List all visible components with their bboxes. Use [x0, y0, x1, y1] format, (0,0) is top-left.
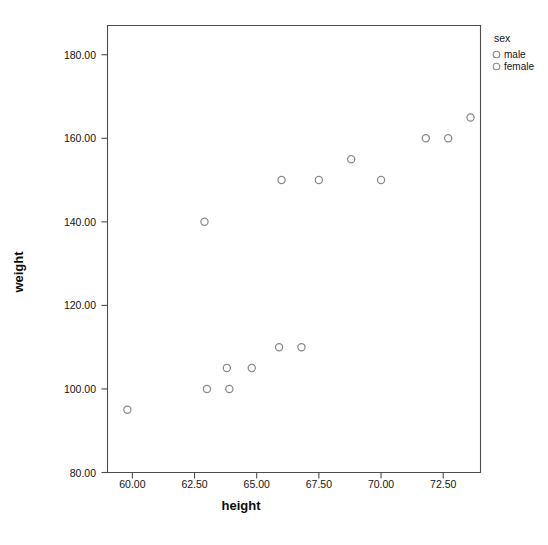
data-point — [201, 218, 208, 225]
plot-border — [108, 26, 481, 473]
x-tick-label: 72.50 — [430, 478, 456, 490]
data-point — [315, 176, 322, 183]
data-point — [124, 406, 131, 413]
legend-title: sex — [494, 32, 548, 44]
data-point — [223, 364, 230, 371]
y-tick-label: 100.00 — [64, 383, 96, 395]
legend-marker-icon — [492, 62, 501, 71]
y-axis-ticks — [102, 55, 108, 473]
x-tick-label: 67.50 — [306, 478, 332, 490]
x-axis-title: height — [0, 498, 548, 513]
data-points — [124, 114, 474, 414]
plot-frame — [108, 26, 481, 473]
data-point — [422, 135, 429, 142]
data-point — [226, 385, 233, 392]
data-point — [298, 344, 305, 351]
scatter-plot-chart: 60.0062.5065.0067.5070.0072.50 80.00100.… — [0, 0, 548, 545]
plot-canvas — [0, 0, 548, 545]
data-point — [377, 176, 384, 183]
data-point — [467, 114, 474, 121]
x-axis-ticks — [132, 473, 443, 479]
y-tick-label: 120.00 — [64, 299, 96, 311]
data-point — [348, 156, 355, 163]
legend-entry: female — [492, 61, 548, 72]
x-tick-label: 60.00 — [119, 478, 145, 490]
legend-entry-label: male — [504, 49, 526, 60]
y-tick-label: 80.00 — [70, 467, 96, 479]
data-point — [203, 385, 210, 392]
y-axis-title: weight — [11, 251, 26, 292]
y-tick-label: 180.00 — [64, 49, 96, 61]
data-point — [248, 364, 255, 371]
x-tick-label: 70.00 — [368, 478, 394, 490]
y-tick-label: 160.00 — [64, 132, 96, 144]
legend-entry: male — [492, 49, 548, 60]
data-point — [275, 344, 282, 351]
legend-marker-icon — [492, 50, 501, 59]
x-tick-label: 65.00 — [244, 478, 270, 490]
data-point — [445, 135, 452, 142]
y-tick-label: 140.00 — [64, 216, 96, 228]
legend-entry-label: female — [504, 61, 534, 72]
x-tick-label: 62.50 — [181, 478, 207, 490]
legend-entries: malefemale — [492, 49, 548, 72]
legend: sex malefemale — [492, 32, 548, 73]
data-point — [278, 176, 285, 183]
